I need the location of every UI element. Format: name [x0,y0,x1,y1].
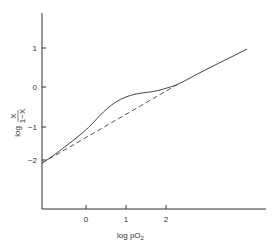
svg-text:X: X [9,113,18,119]
chart: 1 0 −1 −2 0 1 2 log pO2 log X 1−X [0,0,272,248]
y-axis-title: log X 1−X [9,108,27,137]
y-ticks: 1 0 −1 −2 [28,44,46,165]
x-tick-label: 0 [84,215,89,224]
x-tick-label: 1 [124,215,129,224]
y-tick-label: −1 [28,123,38,132]
x-tick-label: 2 [164,215,169,224]
measured-curve [42,49,247,163]
svg-text:log: log [13,126,22,137]
y-tick-label: 1 [33,44,38,53]
svg-text:1−X: 1−X [18,108,27,123]
reference-dashed-line [42,83,180,163]
y-tick-label: −2 [28,156,38,165]
y-tick-label: 0 [33,83,38,92]
x-axis-title: log pO2 [117,231,145,241]
x-ticks: 0 1 2 [84,205,169,224]
